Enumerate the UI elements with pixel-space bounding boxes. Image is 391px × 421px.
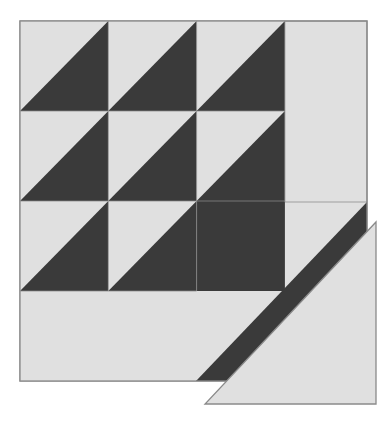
half-square-triangle-grid [20,21,285,291]
cell-base-r3c3 [197,201,285,291]
bottom-left-light-rect [20,291,196,381]
quilt-canvas [0,0,391,421]
grid-cell-r3c2 [108,201,196,291]
grid-cell-r1c3 [197,21,285,111]
grid-cell-r3c1 [20,201,108,291]
grid-cell-r1c2 [108,21,196,111]
quilt-block-diagram [0,0,391,421]
grid-cell-r2c3 [197,111,285,201]
grid-cell-r3c3 [197,201,285,291]
grid-cell-r1c1 [20,21,108,111]
grid-cell-r2c1 [20,111,108,201]
grid-cell-r2c2 [108,111,196,201]
